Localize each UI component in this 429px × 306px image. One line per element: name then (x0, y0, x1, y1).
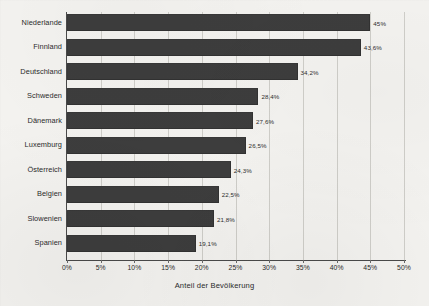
tick-mark (168, 260, 169, 263)
bar-value-label: 43,6% (364, 44, 382, 51)
bar-chart: 0%5%10%15%20%25%30%35%40%45%50% 45%43,6%… (0, 0, 429, 306)
x-tick-label: 0% (62, 264, 72, 271)
category-label: Slowenien (0, 214, 62, 223)
x-tick-label: 5% (96, 264, 106, 271)
bar-row: 27,6% (67, 112, 429, 129)
bar-value-label: 45% (373, 19, 386, 26)
x-tick-label: 30% (262, 264, 276, 271)
bar-row: 24,3% (67, 161, 429, 178)
bar-value-label: 24,3% (234, 166, 252, 173)
bar (67, 210, 214, 227)
bar-row: 45% (67, 14, 429, 31)
bar (67, 14, 370, 31)
bar-row: 19,1% (67, 235, 429, 252)
tick-mark (404, 260, 405, 263)
bar (67, 63, 298, 80)
bar-value-label: 21,8% (217, 215, 235, 222)
bar (67, 88, 258, 105)
bar-row: 26,5% (67, 137, 429, 154)
bar-value-label: 34,2% (301, 68, 319, 75)
category-label: Spanien (0, 238, 62, 247)
tick-mark (236, 260, 237, 263)
bar-row: 22,5% (67, 186, 429, 203)
category-label: Luxemburg (0, 140, 62, 149)
bar-value-label: 27,6% (256, 117, 274, 124)
bar-row: 21,8% (67, 210, 429, 227)
bar-row: 43,6% (67, 39, 429, 56)
x-tick-label: 35% (296, 264, 310, 271)
x-tick-label: 10% (127, 264, 141, 271)
bar (67, 235, 196, 252)
bar (67, 112, 253, 129)
bar-value-label: 26,5% (249, 142, 267, 149)
x-tick-label: 20% (195, 264, 209, 271)
bar-value-label: 28,4% (261, 93, 279, 100)
category-label: Niederlande (0, 18, 62, 27)
bar-value-label: 19,1% (199, 240, 217, 247)
x-tick-label: 50% (397, 264, 411, 271)
category-label: Belgien (0, 189, 62, 198)
bar (67, 137, 246, 154)
tick-mark (202, 260, 203, 263)
tick-mark (303, 260, 304, 263)
category-label: Schweden (0, 91, 62, 100)
tick-mark (101, 260, 102, 263)
x-tick-label: 40% (330, 264, 344, 271)
tick-mark (67, 260, 68, 263)
x-axis-title: Anteil der Bevölkerung (0, 281, 429, 290)
bar (67, 186, 219, 203)
tick-mark (134, 260, 135, 263)
x-tick-label: 45% (363, 264, 377, 271)
category-label: Deutschland (0, 67, 62, 76)
tick-mark (337, 260, 338, 263)
bar-row: 28,4% (67, 88, 429, 105)
tick-mark (370, 260, 371, 263)
category-label: Dänemark (0, 116, 62, 125)
tick-mark (269, 260, 270, 263)
bar-value-label: 22,5% (222, 191, 240, 198)
bar-row: 34,2% (67, 63, 429, 80)
bar (67, 39, 361, 56)
bar (67, 161, 231, 178)
x-tick-label: 15% (161, 264, 175, 271)
x-tick-label: 25% (229, 264, 243, 271)
category-label: Finnland (0, 42, 62, 51)
category-label: Österreich (0, 165, 62, 174)
